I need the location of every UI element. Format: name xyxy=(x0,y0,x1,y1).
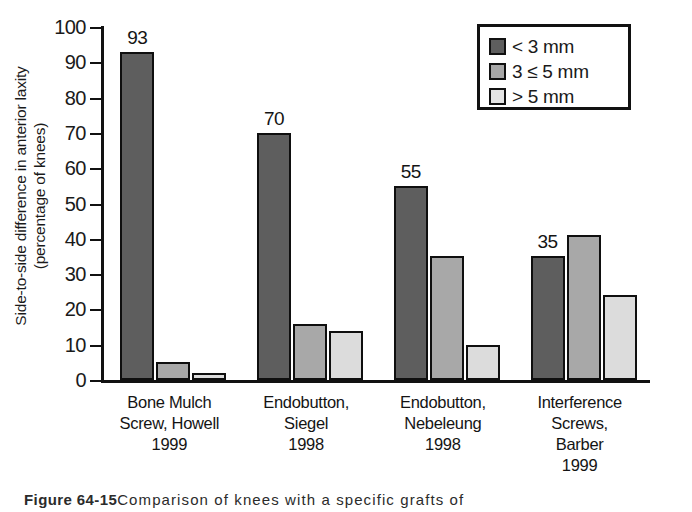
bar xyxy=(567,235,601,380)
legend-swatch-icon xyxy=(489,63,506,80)
x-axis-category-line: 1999 xyxy=(93,434,246,455)
y-axis-tick xyxy=(90,98,101,100)
legend-swatch-icon xyxy=(489,88,506,105)
bar xyxy=(394,186,428,380)
legend-swatch-icon xyxy=(489,38,506,55)
y-axis-tick-label: 30 xyxy=(40,264,86,284)
legend-item: < 3 mm xyxy=(489,34,628,58)
y-axis-tick xyxy=(90,345,101,347)
x-axis-category-line: Endobutton, xyxy=(367,392,520,413)
y-axis-tick xyxy=(90,62,101,64)
x-axis-category-label: Endobutton,Siegel1998 xyxy=(230,392,383,455)
figure-caption: Figure 64-15Comparison of knees with a s… xyxy=(24,490,684,509)
y-axis-tick-label: 10 xyxy=(40,335,86,355)
bar xyxy=(531,256,565,380)
x-axis-category-line: Siegel xyxy=(230,413,383,434)
x-axis-category-line: Endobutton, xyxy=(230,392,383,413)
y-axis-tick-label: 20 xyxy=(40,299,86,319)
bar xyxy=(430,256,464,380)
y-axis-tick-label: 60 xyxy=(40,158,86,178)
y-axis-tick xyxy=(90,168,101,170)
x-axis-line xyxy=(101,380,650,383)
legend-item: 3 ≤ 5 mm xyxy=(489,59,628,83)
bar xyxy=(466,345,500,380)
bar xyxy=(192,373,226,380)
legend-item: > 5 mm xyxy=(489,84,628,108)
figure-caption-text: Comparison of knees with a specific graf… xyxy=(117,491,464,508)
figure-container: Side-to-side difference in anterior laxi… xyxy=(0,0,692,512)
y-axis-tick-labels: 0102030405060708090100 xyxy=(30,27,86,380)
x-axis-category-line: Bone Mulch xyxy=(93,392,246,413)
y-axis-tick-label: 50 xyxy=(40,194,86,214)
y-axis-tick xyxy=(90,204,101,206)
y-axis-line xyxy=(101,26,104,381)
bar-value-label: 35 xyxy=(517,232,579,251)
x-axis-category-line: 1999 xyxy=(503,455,656,476)
x-axis-category-labels: Bone MulchScrew, Howell1999Endobutton,Si… xyxy=(101,392,648,472)
bar xyxy=(257,133,291,380)
y-axis-tick-label: 0 xyxy=(40,370,86,390)
bar-value-label: 93 xyxy=(106,28,168,47)
bar xyxy=(603,295,637,380)
x-axis-category-line: 1998 xyxy=(367,434,520,455)
bar xyxy=(293,324,327,380)
figure-caption-number: Figure 64-15 xyxy=(24,491,117,508)
x-axis-category-line: Nebeleung xyxy=(367,413,520,434)
y-axis-tick xyxy=(90,239,101,241)
bar-value-label: 55 xyxy=(380,162,442,181)
bar xyxy=(329,331,363,380)
legend: < 3 mm3 ≤ 5 mm> 5 mm xyxy=(477,24,631,110)
bar xyxy=(120,52,154,380)
legend-label: 3 ≤ 5 mm xyxy=(512,62,589,81)
y-axis-tick-label: 40 xyxy=(40,229,86,249)
y-axis-tick xyxy=(90,133,101,135)
bar-value-label: 70 xyxy=(243,109,305,128)
y-axis-tick xyxy=(90,27,101,29)
y-axis-tick xyxy=(90,274,101,276)
x-axis-category-line: Screw, Howell xyxy=(93,413,246,434)
bar xyxy=(156,362,190,380)
legend-label: < 3 mm xyxy=(512,37,574,56)
x-axis-category-line: Interference xyxy=(503,392,656,413)
y-axis-tick-label: 80 xyxy=(40,88,86,108)
y-axis-tick-label: 100 xyxy=(40,17,86,37)
y-axis-title-line-1: Side-to-side difference in anterior laxi… xyxy=(11,66,30,325)
x-axis-category-line: Barber xyxy=(503,434,656,455)
y-axis-tick-label: 70 xyxy=(40,123,86,143)
legend-label: > 5 mm xyxy=(512,87,574,106)
x-axis-category-label: InterferenceScrews,Barber1999 xyxy=(503,392,656,476)
y-axis-tick xyxy=(90,380,101,382)
y-axis-tick-label: 90 xyxy=(40,52,86,72)
y-axis-tick xyxy=(90,309,101,311)
x-axis-category-line: 1998 xyxy=(230,434,383,455)
x-axis-category-line: Screws, xyxy=(503,413,656,434)
x-axis-category-label: Bone MulchScrew, Howell1999 xyxy=(93,392,246,455)
x-axis-category-label: Endobutton,Nebeleung1998 xyxy=(367,392,520,455)
